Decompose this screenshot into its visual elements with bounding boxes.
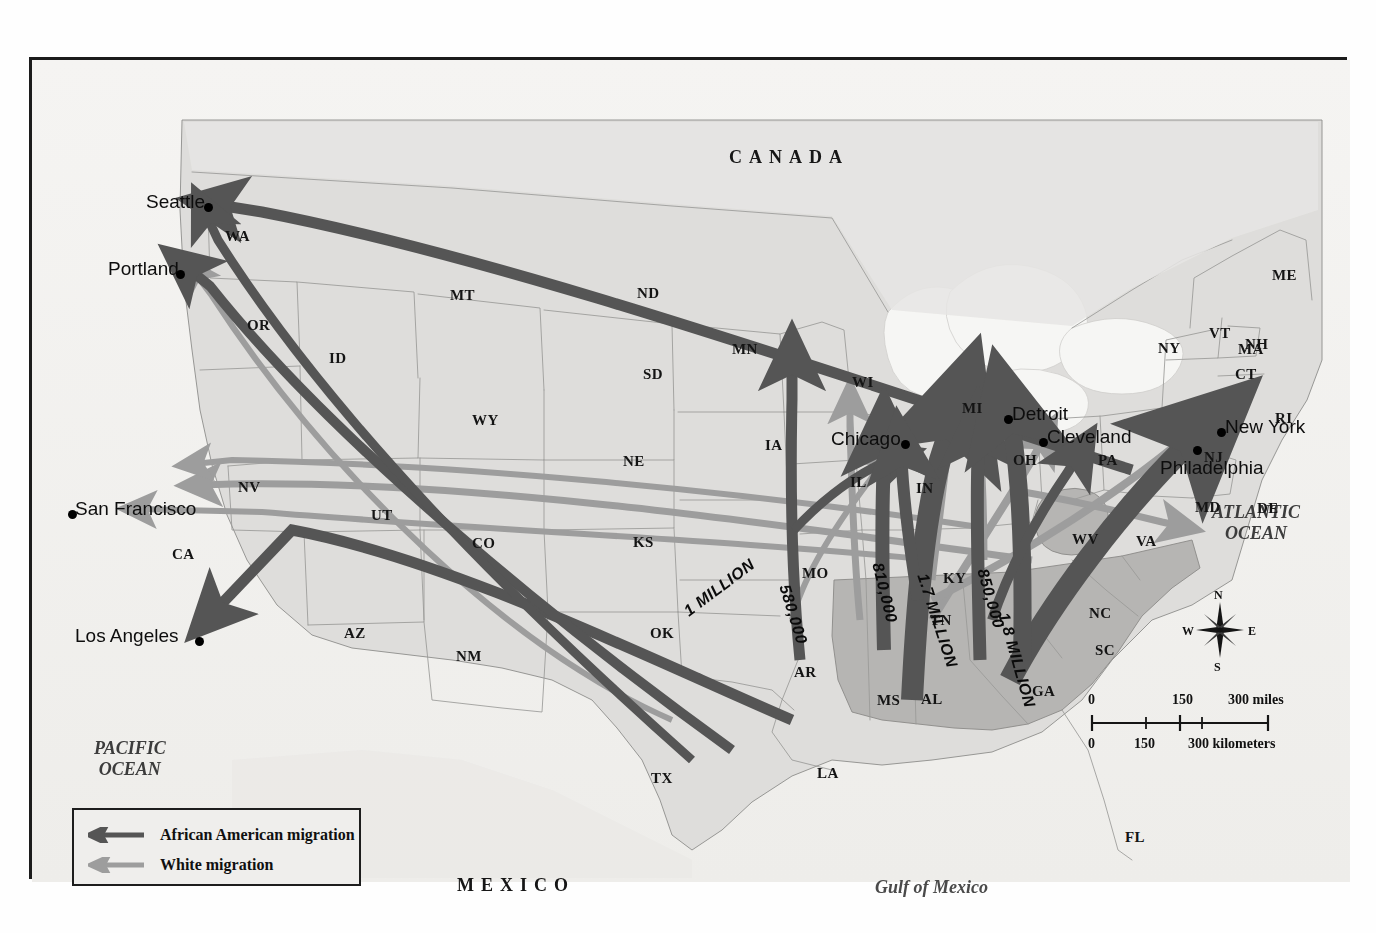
city-dot-san-francisco — [68, 510, 77, 519]
state-label-co: CO — [472, 536, 495, 551]
map-frame: CANADAMEXICOPACIFICOCEANATLANTICOCEANGul… — [29, 57, 1347, 879]
state-label-or: OR — [247, 318, 270, 333]
state-label-ms: MS — [877, 693, 900, 708]
city-label-los-angeles: Los Angeles — [75, 626, 179, 645]
state-label-al: AL — [921, 692, 943, 707]
state-label-ct: CT — [1235, 367, 1257, 382]
state-label-ky: KY — [943, 571, 966, 586]
state-label-in: IN — [916, 481, 933, 496]
country-label-canada: CANADA — [729, 148, 849, 166]
scale-km-tick-150: 150 — [1134, 736, 1155, 752]
state-label-va: VA — [1136, 534, 1157, 549]
state-label-ia: IA — [765, 438, 782, 453]
state-label-il: IL — [850, 475, 867, 490]
legend-label-white: White migration — [160, 856, 273, 874]
state-label-nc: NC — [1089, 606, 1111, 621]
state-label-ar: AR — [794, 665, 816, 680]
state-label-ut: UT — [371, 508, 393, 523]
state-label-id: ID — [329, 351, 346, 366]
compass-star-icon — [1182, 588, 1258, 674]
city-dot-chicago — [901, 440, 910, 449]
city-label-san-francisco: San Francisco — [75, 499, 196, 518]
state-label-mi: MI — [962, 401, 983, 416]
city-label-cleveland: Cleveland — [1047, 427, 1132, 446]
state-label-vt: VT — [1209, 326, 1231, 341]
state-label-ca: CA — [172, 547, 194, 562]
legend-arrow-african-american-icon — [88, 827, 146, 843]
city-dot-cleveland — [1039, 438, 1048, 447]
city-dot-portland — [176, 270, 185, 279]
scale-bar: 0 150 300 miles 0 150 300 kilometers — [1088, 692, 1288, 756]
state-label-sd: SD — [643, 367, 663, 382]
city-label-chicago: Chicago — [831, 429, 901, 448]
state-label-nh: NH — [1245, 337, 1268, 352]
state-label-nm: NM — [456, 649, 482, 664]
city-label-seattle: Seattle — [146, 192, 205, 211]
state-label-la: LA — [817, 766, 839, 781]
state-label-ny: NY — [1158, 341, 1180, 356]
state-label-ks: KS — [633, 535, 654, 550]
city-dot-los-angeles — [195, 637, 204, 646]
state-label-sc: SC — [1095, 643, 1115, 658]
state-label-tx: TX — [651, 771, 673, 786]
state-label-pa: PA — [1098, 453, 1118, 468]
legend-arrow-white-icon — [88, 857, 146, 873]
scale-km-tick-0: 0 — [1088, 736, 1095, 752]
map-graphic — [32, 60, 1350, 882]
scale-miles-unit: 300 miles — [1228, 692, 1284, 708]
state-label-mo: MO — [802, 566, 829, 581]
state-label-mn: MN — [732, 342, 758, 357]
state-label-md: MD — [1195, 500, 1221, 515]
legend-item-white: White migration — [88, 854, 273, 876]
state-label-oh: OH — [1013, 453, 1037, 468]
state-label-wi: WI — [852, 375, 874, 390]
state-label-ok: OK — [650, 626, 674, 641]
country-label-mexico: MEXICO — [457, 876, 575, 894]
map-legend: African American migration White migrati… — [72, 808, 361, 886]
legend-label-african-american: African American migration — [160, 826, 355, 844]
state-label-ne: NE — [623, 454, 645, 469]
state-label-fl: FL — [1125, 830, 1145, 845]
state-label-wa: WA — [225, 229, 250, 244]
city-label-portland: Portland — [108, 259, 179, 278]
state-label-nd: ND — [637, 286, 659, 301]
state-label-az: AZ — [344, 626, 366, 641]
legend-item-african-american: African American migration — [88, 824, 355, 846]
city-dot-detroit — [1004, 415, 1013, 424]
state-label-nv: NV — [238, 480, 260, 495]
city-label-new-york: New York — [1225, 417, 1305, 436]
scale-miles-tick-150: 150 — [1172, 692, 1193, 708]
state-label-wv: WV — [1072, 532, 1099, 547]
city-label-detroit: Detroit — [1012, 404, 1068, 423]
state-label-me: ME — [1272, 268, 1297, 283]
city-label-philadelphia: Philadelphia — [1160, 458, 1264, 477]
city-dot-seattle — [204, 203, 213, 212]
ocean-label-pacific-ocean: PACIFICOCEAN — [94, 738, 166, 779]
city-dot-new-york — [1217, 428, 1226, 437]
state-label-mt: MT — [450, 288, 475, 303]
state-label-wy: WY — [472, 413, 499, 428]
scale-miles-tick-0: 0 — [1088, 692, 1095, 708]
map-page: CANADAMEXICOPACIFICOCEANATLANTICOCEANGul… — [0, 0, 1376, 933]
city-dot-philadelphia — [1193, 446, 1202, 455]
compass-rose: N S W E — [1182, 588, 1258, 674]
scale-ruler-icon — [1090, 712, 1290, 734]
scale-km-unit: 300 kilometers — [1188, 736, 1275, 752]
ocean-label-gulf-of-mexico: Gulf of Mexico — [875, 878, 988, 896]
state-label-de: DE — [1257, 501, 1279, 516]
ocean-label-atlantic-ocean: ATLANTICOCEAN — [1212, 502, 1300, 543]
